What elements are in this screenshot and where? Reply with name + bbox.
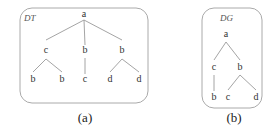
tree-edge — [84, 20, 85, 45]
tree-edge — [122, 59, 139, 72]
tree-node-b: b — [120, 44, 125, 55]
tree-node-a: a — [224, 28, 229, 39]
panel-caption: (a) — [78, 110, 92, 125]
tree-edge — [240, 75, 256, 90]
tree-edge — [46, 20, 84, 40]
tree-edge — [84, 20, 122, 40]
tree-edge — [46, 59, 62, 72]
tree-node-b: b — [212, 91, 217, 102]
panel-caption: (b) — [226, 110, 241, 125]
tree-edge — [110, 59, 122, 72]
tree-edge — [33, 59, 46, 72]
panel-b: DGacbbcd(b) — [202, 8, 262, 125]
tree-node-b: b — [60, 73, 65, 84]
tree-node-b: b — [83, 44, 88, 55]
tree-node-d: d — [254, 91, 259, 102]
tree-node-c: c — [226, 91, 231, 102]
panel-a: DTacbbbbcdd(a) — [20, 8, 148, 125]
tree-node-a: a — [82, 8, 87, 19]
tree-edge — [214, 42, 226, 60]
tree-diagram: DTacbbbbcdd(a)DGacbbcd(b) — [0, 0, 279, 132]
tree-node-c: c — [83, 73, 88, 84]
tree-node-c: c — [44, 44, 49, 55]
tree-edge — [228, 75, 240, 90]
tree-node-d: d — [108, 73, 113, 84]
panel-title: DT — [23, 13, 36, 23]
tree-edge — [226, 42, 240, 60]
tree-node-b: b — [31, 73, 36, 84]
panel-title: DG — [219, 13, 233, 23]
tree-node-b: b — [238, 61, 243, 72]
tree-node-d: d — [137, 73, 142, 84]
tree-node-c: c — [212, 61, 217, 72]
